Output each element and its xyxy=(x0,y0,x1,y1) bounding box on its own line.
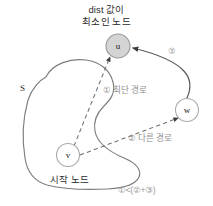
dijkstra-diagram xyxy=(0,0,213,206)
node-label-w: w xyxy=(181,105,193,116)
edge-label-shortest-path: ① 최단 경로 xyxy=(103,85,147,95)
edge-v-to-u xyxy=(74,57,110,146)
node-label-v: v xyxy=(62,150,74,161)
set-label-s: S xyxy=(20,83,25,94)
edge-label-other-path: ② 다른 경로 xyxy=(128,133,172,143)
edge-label-three: ③ xyxy=(168,47,176,57)
diagram-canvas: dist 값이 최소인 노드 u w v S ① 최단 경로 ② 다른 경로 ③… xyxy=(0,0,213,206)
inequality-formula: ①<(②+③) xyxy=(118,185,155,195)
start-node-label: 시작 노드 xyxy=(50,174,89,185)
title-line-1: dist 값이 xyxy=(0,4,213,15)
title-line-2: 최소인 노드 xyxy=(0,16,213,27)
node-label-u: u xyxy=(112,41,124,52)
set-s-region xyxy=(23,60,139,190)
